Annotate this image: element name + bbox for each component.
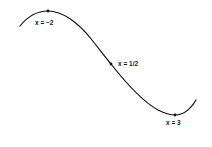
local-max-point <box>47 10 50 13</box>
local-min-label: x = 3 <box>166 120 181 127</box>
inflection-label: x = 1/2 <box>118 61 138 68</box>
cubic-curve <box>20 11 196 115</box>
local-min-point <box>174 114 177 117</box>
inflection-point <box>110 63 113 66</box>
local-max-label: x = −2 <box>35 20 53 27</box>
